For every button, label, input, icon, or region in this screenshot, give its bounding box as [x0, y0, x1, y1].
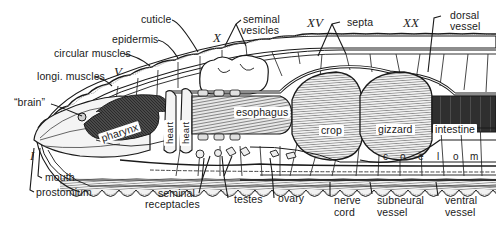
label-dorsal-vessel-line2: vessel	[450, 21, 480, 32]
label-gizzard: gizzard	[376, 124, 415, 135]
label-epidermis: epidermis	[112, 34, 158, 45]
label-intestine: intestine	[433, 124, 477, 135]
head-region	[34, 95, 168, 157]
label-nerve-cord-line1: nerve	[334, 195, 361, 206]
crop-shape	[292, 72, 362, 160]
coelom-letter: o	[400, 151, 406, 162]
reproductive-organs	[196, 147, 296, 159]
label-subneural-vessel-line2: vessel	[377, 207, 407, 218]
seminal-vesicles-shape	[200, 55, 269, 94]
brain-ganglion	[78, 113, 86, 121]
label-crop: crop	[319, 125, 344, 136]
label-ovary: ovary	[278, 193, 304, 204]
coelom-letter: o	[453, 151, 459, 162]
label-heart-2: heart	[180, 120, 191, 146]
label-cuticle: cuticle	[141, 14, 171, 25]
coelom-letter: l	[437, 151, 439, 162]
gizzard-shape	[360, 72, 432, 160]
label-heart-1: heart	[164, 120, 175, 146]
label-longi-muscles: longi. muscles	[37, 71, 105, 82]
label-ventral-vessel-line2: vessel	[445, 207, 475, 218]
label-seminal-vesicles-line2: vesicles	[241, 25, 279, 36]
label-brain: “brain”	[14, 97, 45, 108]
label-ventral-vessel-line1: ventral	[445, 195, 477, 206]
segment-marker-X: X	[213, 30, 221, 46]
label-seminal-receptacles-line2: receptacles	[145, 199, 200, 210]
label-prostomium: prostomium	[36, 187, 92, 198]
label-esophagus: esophagus	[234, 107, 290, 118]
label-subneural-vessel-line1: subneural	[377, 195, 424, 206]
segment-marker-V: V	[114, 64, 122, 80]
label-mouth: mouth	[45, 172, 75, 183]
label-circular-muscles: circular muscles	[54, 48, 131, 59]
label-septa: septa	[347, 17, 373, 28]
coelom-letter: e	[418, 151, 424, 162]
coelom-letter: c	[383, 151, 388, 162]
coelom-letter: m	[470, 151, 478, 162]
label-testes: testes	[234, 194, 263, 205]
label-nerve-cord-line2: cord	[334, 207, 355, 218]
segment-marker-XV: XV	[307, 15, 323, 31]
segment-marker-XX: XX	[403, 15, 419, 31]
segment-marker-I: I	[30, 148, 34, 164]
earthworm-anatomy-diagram: I V X XV XX cuticle epidermis circular m…	[0, 0, 496, 227]
